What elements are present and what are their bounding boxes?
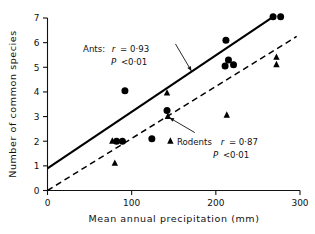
y-tick-label-5: 5 [34,63,40,73]
marker-ants-6 [222,37,229,44]
marker-ants-4 [164,107,171,114]
ants-annotation-leader [175,44,191,71]
rodents-annotation: Rodents r = 0·87 P <0·01 [177,137,258,160]
marker-ants-2 [121,87,128,94]
y-axis-tick-labels: 01234567 [34,13,40,196]
ants-annotation-label: Ants: r = 0·93 [83,44,149,54]
regression-lines [48,17,297,191]
marker-ants-5 [222,63,229,70]
x-axis-ticks [48,191,301,196]
y-axis-label: Number of common species [7,30,18,178]
y-tick-label-4: 4 [34,87,40,97]
y-tick-label-6: 6 [34,38,40,48]
x-axis-tick-labels: 0100200300 [45,198,309,208]
marker-rodents-1 [112,159,118,165]
marker-ants-9 [270,13,277,20]
y-tick-label-0: 0 [34,186,40,196]
marker-rodents-4 [167,137,173,143]
plot-canvas: 01234567 0100200300 Mean annual precipit… [0,0,315,234]
fit-line-rodents [48,36,297,190]
y-tick-label-1: 1 [34,161,40,171]
scatter-plot-figure: 01234567 0100200300 Mean annual precipit… [0,0,315,234]
marker-rodents-5 [224,111,230,117]
marker-ants-3 [148,135,155,142]
rodents-annotation-label: Rodents r = 0·87 [177,137,258,147]
marker-rodents-7 [273,61,279,67]
y-tick-label-7: 7 [34,13,40,23]
marker-rodents-6 [273,53,279,59]
y-tick-label-2: 2 [34,137,40,147]
marker-ants-7 [225,56,232,63]
x-axis-label: Mean annual precipitation (mm) [88,213,259,224]
rodents-annotation-pvalue: P <0·01 [213,150,249,160]
annotation-leader-lines [170,44,195,133]
y-tick-label-3: 3 [34,112,40,122]
x-tick-label-300: 300 [291,198,308,208]
ants-annotation: Ants: r = 0·93 P <0·01 [83,44,149,67]
marker-ants-10 [277,13,284,20]
marker-ants-1 [119,138,126,145]
x-tick-label-0: 0 [45,198,51,208]
x-tick-label-200: 200 [207,198,224,208]
ants-annotation-pvalue: P <0·01 [111,57,147,67]
marker-ants-8 [230,61,237,68]
x-tick-label-100: 100 [123,198,140,208]
y-axis-ticks [43,18,48,191]
